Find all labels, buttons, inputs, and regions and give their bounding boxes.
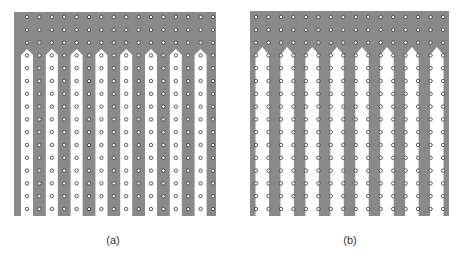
grid-dot bbox=[25, 195, 28, 198]
grid-dot bbox=[292, 143, 295, 146]
grid-dot bbox=[211, 195, 214, 198]
grid-dot bbox=[329, 182, 332, 185]
grid-dot bbox=[279, 92, 282, 95]
grid-dot bbox=[342, 118, 345, 121]
grid-dot bbox=[429, 54, 432, 57]
grid-dot bbox=[304, 143, 307, 146]
grid-dot bbox=[174, 92, 177, 95]
grid-dot bbox=[392, 182, 395, 185]
grid-dot bbox=[292, 195, 295, 198]
grid-dot bbox=[429, 131, 432, 134]
grid-dot bbox=[404, 79, 407, 82]
grid-dot bbox=[162, 118, 165, 121]
grid-dot bbox=[379, 156, 382, 159]
grid-dot bbox=[211, 92, 214, 95]
grid-dot bbox=[342, 79, 345, 82]
grid-dot bbox=[267, 28, 270, 31]
grid-dot bbox=[137, 131, 140, 134]
grid-dot bbox=[174, 79, 177, 82]
grid-dot bbox=[50, 169, 53, 172]
grid-dot bbox=[354, 131, 357, 134]
grid-dot bbox=[254, 169, 257, 172]
grid-dot bbox=[342, 195, 345, 198]
grid-dot bbox=[87, 182, 90, 185]
grid-dot bbox=[292, 169, 295, 172]
grid-dot bbox=[25, 41, 28, 44]
grid-dot bbox=[211, 79, 214, 82]
grid-dot bbox=[38, 143, 41, 146]
grid-dot bbox=[441, 105, 444, 108]
grid-dot bbox=[379, 131, 382, 134]
grid-dot bbox=[62, 131, 65, 134]
grid-dot bbox=[187, 54, 190, 57]
grid-dot bbox=[304, 28, 307, 31]
grid-dot bbox=[367, 131, 370, 134]
grid-dot bbox=[342, 67, 345, 70]
grid-dot bbox=[254, 182, 257, 185]
grid-dot bbox=[199, 92, 202, 95]
grid-dot bbox=[342, 182, 345, 185]
grid-dot bbox=[416, 195, 419, 198]
grid-dot bbox=[149, 207, 152, 210]
grid-dot bbox=[125, 118, 128, 121]
grid-dot bbox=[279, 41, 282, 44]
grid-dot bbox=[441, 169, 444, 172]
grid-dot bbox=[112, 207, 115, 210]
grid-dot bbox=[441, 41, 444, 44]
grid-dot bbox=[292, 67, 295, 70]
grid-dot bbox=[304, 118, 307, 121]
grid-dot bbox=[404, 169, 407, 172]
grid-dot bbox=[38, 41, 41, 44]
grid-dot bbox=[254, 118, 257, 121]
grid-dot bbox=[317, 118, 320, 121]
grid-dot bbox=[137, 118, 140, 121]
grid-dot bbox=[87, 79, 90, 82]
figure: (a) (b) bbox=[0, 0, 463, 257]
grid-dot bbox=[25, 67, 28, 70]
grid-dot bbox=[404, 182, 407, 185]
grid-dot bbox=[304, 195, 307, 198]
grid-dot bbox=[100, 28, 103, 31]
grid-dot bbox=[187, 105, 190, 108]
grid-dot bbox=[429, 143, 432, 146]
grid-dot bbox=[50, 182, 53, 185]
grid-dot bbox=[329, 105, 332, 108]
grid-dot bbox=[137, 92, 140, 95]
grid-dot bbox=[342, 41, 345, 44]
grid-dot bbox=[292, 54, 295, 57]
grid-dot bbox=[441, 15, 444, 18]
grid-dot bbox=[149, 79, 152, 82]
grid-dot bbox=[342, 156, 345, 159]
grid-dot bbox=[62, 195, 65, 198]
grid-dot bbox=[75, 143, 78, 146]
grid-dot bbox=[392, 41, 395, 44]
grid-dot bbox=[329, 28, 332, 31]
grid-dot bbox=[100, 92, 103, 95]
grid-dot bbox=[50, 15, 53, 18]
grid-dot bbox=[62, 54, 65, 57]
grid-dot bbox=[304, 182, 307, 185]
grid-dot bbox=[317, 105, 320, 108]
grid-dot bbox=[392, 169, 395, 172]
grid-dot bbox=[279, 169, 282, 172]
grid-dot bbox=[87, 28, 90, 31]
grid-dot bbox=[367, 67, 370, 70]
grid-dot bbox=[429, 182, 432, 185]
grid-dot bbox=[292, 79, 295, 82]
grid-dot bbox=[392, 156, 395, 159]
grid-dot bbox=[279, 54, 282, 57]
grid-dot bbox=[87, 41, 90, 44]
grid-dot bbox=[329, 41, 332, 44]
grid-dot bbox=[317, 156, 320, 159]
grid-dot bbox=[112, 143, 115, 146]
grid-dot bbox=[379, 67, 382, 70]
grid-dot bbox=[441, 143, 444, 146]
grid-dot bbox=[317, 195, 320, 198]
grid-dot bbox=[367, 15, 370, 18]
grid-dot bbox=[38, 105, 41, 108]
grid-dot bbox=[62, 15, 65, 18]
grid-dot bbox=[75, 28, 78, 31]
grid-dot bbox=[267, 118, 270, 121]
grid-dot bbox=[304, 105, 307, 108]
grid-dot bbox=[62, 79, 65, 82]
